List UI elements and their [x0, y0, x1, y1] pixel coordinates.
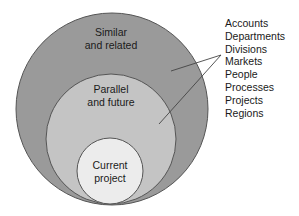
outer-label-line2: and related	[71, 39, 151, 52]
category-item: People	[225, 68, 285, 81]
middle-label-line2: and future	[71, 96, 151, 109]
inner-label-line1: Current	[70, 159, 150, 172]
middle-circle-label: Parallel and future	[71, 83, 151, 109]
category-item: Markets	[225, 55, 285, 68]
inner-circle-label: Current project	[70, 159, 150, 185]
category-item: Processes	[225, 81, 285, 94]
category-item: Divisions	[225, 43, 285, 56]
inner-label-line2: project	[70, 172, 150, 185]
outer-label-line1: Similar	[71, 26, 151, 39]
category-list: Accounts Departments Divisions Markets P…	[225, 17, 285, 119]
category-item: Projects	[225, 94, 285, 107]
outer-circle-label: Similar and related	[71, 26, 151, 52]
category-item: Accounts	[225, 17, 285, 30]
category-item: Regions	[225, 107, 285, 120]
category-item: Departments	[225, 30, 285, 43]
middle-label-line1: Parallel	[71, 83, 151, 96]
